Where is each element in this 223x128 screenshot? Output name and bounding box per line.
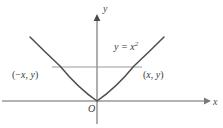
point-label-right: (x, y) <box>143 70 164 80</box>
x-axis-arrowhead <box>204 98 211 105</box>
right-close-paren: ) <box>160 69 163 80</box>
x-axis-label: x <box>213 97 217 107</box>
left-close-paren: ) <box>35 69 38 80</box>
curve-equation-exponent: 2 <box>135 40 139 48</box>
curve-equation-text: y = x <box>114 41 135 52</box>
figure-canvas <box>0 0 223 128</box>
point-label-left: (−x, y) <box>12 70 38 80</box>
right-comma: , <box>151 69 154 80</box>
curve-equation-label: y = x2 <box>114 42 138 52</box>
y-axis-arrowhead <box>94 14 101 21</box>
y-axis-label: y <box>103 4 107 14</box>
parabola-figure: y x y = x2 (−x, y) (x, y) O <box>0 0 223 128</box>
left-comma: , <box>25 69 28 80</box>
origin-label: O <box>88 104 95 114</box>
